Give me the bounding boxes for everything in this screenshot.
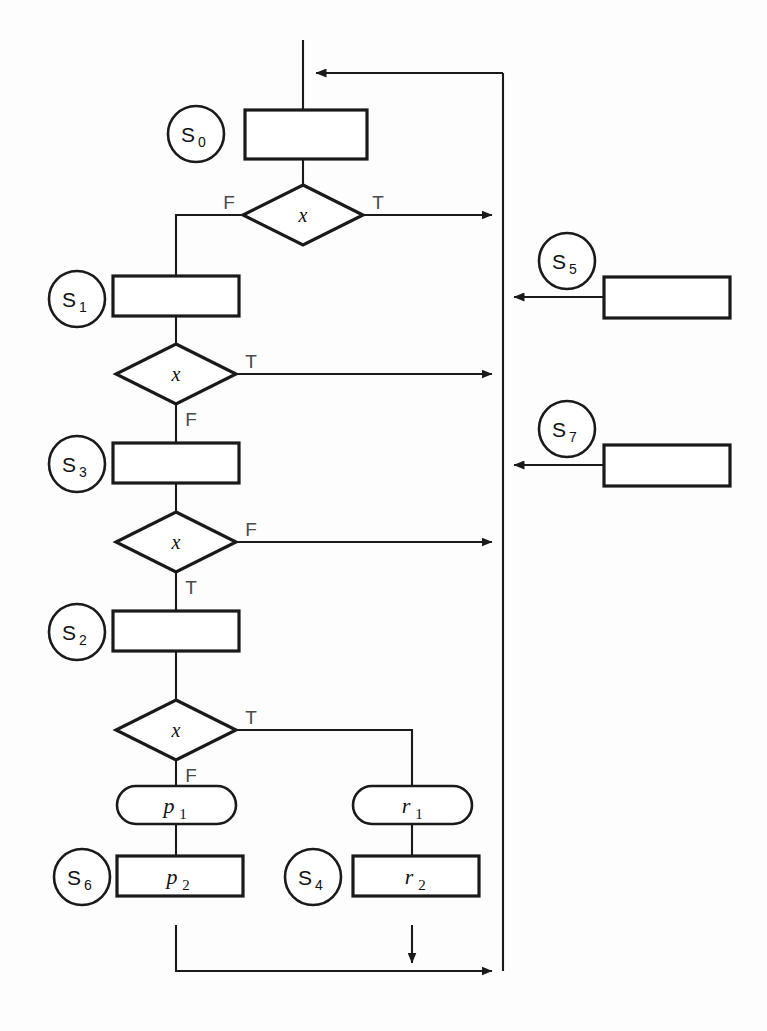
state-sub-s2: 2: [79, 632, 87, 648]
state-label-s6: S: [67, 866, 81, 889]
state-circle-s3[interactable]: [49, 436, 105, 492]
state-circle-s7[interactable]: [539, 401, 595, 457]
state-circle-s6[interactable]: [54, 849, 110, 905]
state-sub-s7: 7: [569, 429, 577, 445]
branch-label-d2-true: T: [245, 707, 257, 728]
state-label-s1: S: [62, 288, 76, 311]
box-sub-p2: 2: [182, 877, 190, 893]
branch-label-d2-false: F: [185, 765, 197, 786]
state-sub-s4: 4: [315, 877, 323, 893]
decision-symbol-d1: x: [171, 363, 181, 385]
decision-symbol-d0: x: [298, 204, 308, 226]
process-box-s7[interactable]: [604, 445, 730, 486]
connector-p2-to-bottom-rail: [176, 925, 492, 971]
state-circle-s0[interactable]: [168, 106, 224, 162]
connector-d2-true-to-r1: [236, 730, 412, 786]
process-box-p2[interactable]: [117, 856, 243, 896]
state-label-s0: S: [181, 123, 195, 146]
state-circle-s2[interactable]: [49, 604, 105, 660]
state-circle-s5[interactable]: [539, 233, 595, 289]
process-box-r2[interactable]: [353, 856, 479, 896]
branch-label-d3-true: T: [185, 577, 197, 598]
rounded-box-p1[interactable]: [117, 786, 236, 824]
branch-label-d1-false: F: [185, 409, 197, 430]
box-sub-p1: 1: [179, 806, 187, 822]
branch-label-d1-true: T: [245, 351, 257, 372]
decision-symbol-d2: x: [171, 719, 181, 741]
state-sub-s1: 1: [79, 299, 87, 315]
rounded-box-r1[interactable]: [353, 786, 472, 824]
decision-symbol-d3: x: [171, 531, 181, 553]
process-box-s3[interactable]: [113, 443, 239, 483]
state-circle-s1[interactable]: [49, 271, 105, 327]
branch-label-d0-true: T: [372, 192, 384, 213]
branch-label-d0-false: F: [223, 192, 235, 213]
box-sub-r2: 2: [418, 877, 426, 893]
process-box-s5[interactable]: [604, 277, 730, 318]
flowchart-svg: S 0 S 1 S 3 S 2 S 6 S 4 S 5 S 7 x x x x …: [0, 0, 767, 1031]
state-label-s5: S: [552, 250, 566, 273]
box-label-p2: p: [165, 864, 178, 889]
process-box-s1[interactable]: [113, 276, 239, 316]
box-label-r1: r: [402, 793, 411, 818]
box-label-r2: r: [405, 864, 414, 889]
state-sub-s0: 0: [198, 134, 206, 150]
state-label-s2: S: [62, 621, 76, 644]
state-sub-s6: 6: [84, 877, 92, 893]
process-box-s2[interactable]: [113, 611, 239, 651]
state-circle-s4[interactable]: [285, 849, 341, 905]
diagram-canvas: S 0 S 1 S 3 S 2 S 6 S 4 S 5 S 7 x x x x …: [0, 0, 767, 1031]
state-label-s4: S: [298, 866, 312, 889]
process-box-s0[interactable]: [245, 110, 367, 159]
state-label-s3: S: [62, 453, 76, 476]
state-sub-s5: 5: [569, 261, 577, 277]
box-label-p1: p: [162, 793, 175, 818]
state-label-s7: S: [552, 418, 566, 441]
state-sub-s3: 3: [79, 464, 87, 480]
branch-label-d3-false: F: [245, 519, 257, 540]
connector-d0-false-to-s1: [176, 215, 243, 276]
box-sub-r1: 1: [415, 806, 423, 822]
